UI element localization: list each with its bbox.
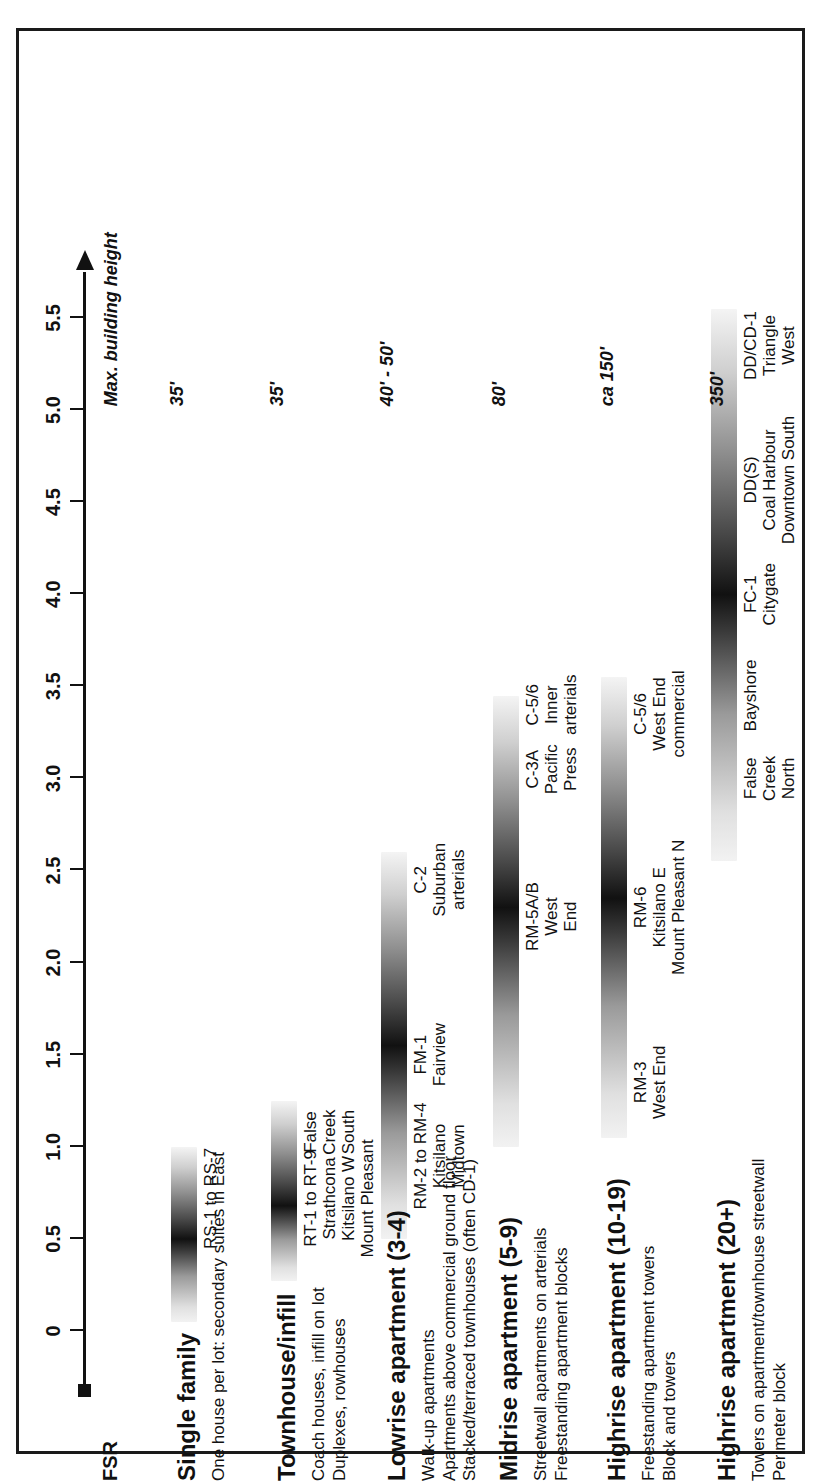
axis-tick: [70, 776, 83, 778]
category-description-5: Freestanding apartment towers Block and …: [639, 1246, 680, 1481]
bar-5: [601, 677, 627, 1138]
zone-label-3-2: FM-1 Fairview: [411, 1023, 449, 1086]
zone-label-2-2: False Creek South: [301, 1109, 358, 1154]
axis-tick-label: 4.5: [42, 488, 65, 516]
zone-label-6-1: False Creek North: [741, 756, 798, 801]
bar-3: [381, 852, 407, 1239]
bar-2: [271, 1101, 297, 1282]
max-height-label-6: 350': [707, 372, 728, 406]
zone-label-4-3: C-5/6 Inner arterials: [523, 675, 580, 735]
axis-tick: [70, 684, 83, 686]
rotated-chart-canvas: 00.51.01.52.02.53.03.54.04.55.05.5FSRMax…: [21, 31, 801, 1451]
axis-tick: [70, 500, 83, 502]
axis-tick: [70, 1145, 83, 1147]
max-height-label-4: 80': [489, 382, 510, 406]
zone-label-4-1: RM-5A/B West End: [523, 882, 580, 951]
axis-tick-label: 2.0: [42, 949, 65, 977]
axis-tick-label: 4.0: [42, 580, 65, 608]
axis-tick-label: 1.5: [42, 1041, 65, 1069]
zone-label-6-4: DD(S) Coal Harbour Downtown South: [741, 416, 798, 545]
category-title-6: Highrise apartment (20+): [713, 1199, 741, 1481]
category-description-3: Walk-up apartments Apartments above comm…: [419, 1156, 481, 1481]
axis-tick: [70, 961, 83, 963]
fsr-axis-arrow: [76, 250, 94, 270]
axis-tick-label: 5.5: [42, 304, 65, 332]
zone-label-5-1: RM-3 West End: [631, 1046, 669, 1119]
category-title-4: Midrise apartment (5-9): [495, 1217, 523, 1481]
axis-tick: [70, 869, 83, 871]
axis-tick-label: 0: [42, 1325, 65, 1336]
axis-tick: [70, 408, 83, 410]
axis-tick-label: 3.0: [42, 765, 65, 793]
category-description-1: One house per lot: secondary suites in E…: [209, 1152, 230, 1481]
max-height-label-3: 40' - 50': [377, 342, 398, 407]
bar-1: [171, 1147, 197, 1322]
axis-tick-label: 2.5: [42, 857, 65, 885]
max-height-label-5: ca 150': [597, 347, 618, 406]
chart-page: 00.51.01.52.02.53.03.54.04.55.05.5FSRMax…: [0, 0, 823, 1482]
max-building-height-label: Max. building height: [101, 232, 122, 406]
axis-tick-label: 0.5: [42, 1225, 65, 1253]
zone-label-6-3: FC-1 Citygate: [741, 563, 779, 625]
max-height-label-2: 35': [267, 382, 288, 406]
zone-label-6-2: Bayshore: [741, 660, 760, 732]
zone-label-4-2: C-3A Pacific Press: [523, 744, 580, 794]
zone-label-6-5: DD/CD-1 Triangle West: [741, 311, 798, 380]
category-description-2: Coach houses, infill on lot Duplexes, ro…: [309, 1287, 350, 1481]
chart-frame: 00.51.01.52.02.53.03.54.04.55.05.5FSRMax…: [16, 28, 805, 1454]
fsr-axis-title: FSR: [99, 1441, 122, 1481]
fsr-axis-origin-marker: [78, 1384, 91, 1397]
category-title-2: Townhouse/infill: [273, 1293, 301, 1481]
axis-tick: [70, 316, 83, 318]
bar-4: [493, 696, 519, 1147]
axis-tick: [70, 1237, 83, 1239]
axis-tick-label: 5.0: [42, 396, 65, 424]
axis-tick: [70, 1329, 83, 1331]
category-title-1: Single family: [173, 1333, 201, 1481]
category-description-4: Streetwall apartments on arterials Frees…: [531, 1228, 572, 1481]
category-title-3: Lowrise apartment (3-4): [383, 1210, 411, 1481]
axis-tick: [70, 592, 83, 594]
max-height-label-1: 35': [167, 382, 188, 406]
axis-tick-label: 1.0: [42, 1133, 65, 1161]
category-description-6: Towers on apartment/townhouse streetwall…: [749, 1159, 790, 1481]
axis-tick-label: 3.5: [42, 672, 65, 700]
zone-label-5-2: RM-6 Kitsilano E Mount Pleasant N: [631, 840, 688, 975]
zone-label-5-3: C-5/6 West End commercial: [631, 670, 688, 757]
zone-label-2-1: RT-1 to RT-9 Strathcona Kitsilano W Moun…: [301, 1139, 377, 1257]
zone-label-3-3: C-2 Suburban arterials: [411, 843, 468, 917]
category-title-5: Highrise apartment (10-19): [603, 1178, 631, 1481]
fsr-axis-line: [83, 272, 86, 1389]
axis-tick: [70, 1053, 83, 1055]
